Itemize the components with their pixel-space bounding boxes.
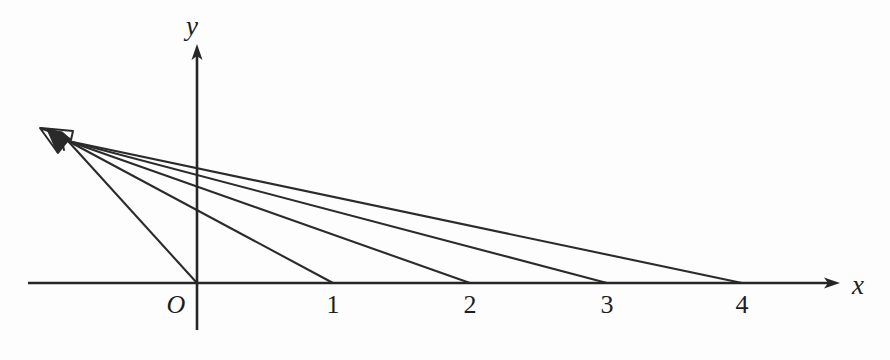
x-tick-label-4: 4 — [722, 292, 762, 318]
y-axis-label: y — [186, 13, 198, 40]
light-source-arrow-marker — [40, 128, 73, 153]
x-axis-label: x — [852, 272, 864, 299]
ray-to-0 — [68, 141, 197, 283]
ray-to-3 — [68, 141, 607, 283]
x-tick-label-3: 3 — [587, 292, 627, 318]
ray-to-1 — [68, 141, 333, 283]
origin-label: O — [156, 292, 196, 318]
ray-pencil-group — [68, 141, 742, 283]
x-tick-label-2: 2 — [450, 292, 490, 318]
x-axis-group — [28, 278, 840, 289]
x-tick-label-1: 1 — [313, 292, 353, 318]
ray-to-4 — [68, 141, 742, 283]
figure-canvas: y x O 1 2 3 4 — [0, 0, 890, 360]
